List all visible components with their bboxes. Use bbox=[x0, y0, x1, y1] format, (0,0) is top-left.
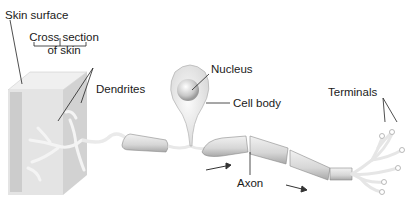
label-axon: Axon bbox=[237, 177, 263, 190]
label-cross-section: Cross section of skin bbox=[24, 31, 104, 57]
label-cross-section-line2: of skin bbox=[24, 44, 104, 57]
label-cross-section-line1: Cross section bbox=[24, 31, 104, 44]
label-nucleus: Nucleus bbox=[211, 63, 253, 76]
label-terminals: Terminals bbox=[328, 86, 377, 99]
label-cell-body: Cell body bbox=[233, 97, 281, 110]
label-dendrites: Dendrites bbox=[96, 83, 145, 96]
skin-cross-section bbox=[8, 72, 87, 195]
axon-terminals bbox=[352, 132, 402, 192]
cell-body bbox=[171, 65, 209, 146]
myelin-segment bbox=[122, 134, 168, 152]
dendrite-fiber bbox=[82, 134, 126, 142]
nucleus bbox=[177, 79, 199, 101]
label-skin-surface: Skin surface bbox=[5, 9, 68, 22]
